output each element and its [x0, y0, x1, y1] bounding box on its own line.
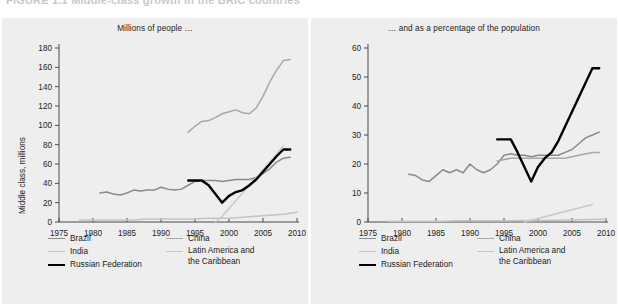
legend-column-1: BrazilIndiaRussian Federation: [359, 232, 479, 271]
legend-label-india: India: [381, 245, 399, 258]
svg-text:20: 20: [352, 160, 362, 169]
legend-swatch-brazil: [359, 238, 376, 239]
svg-text:60: 60: [352, 44, 362, 53]
legend-label-brazil: Brazil: [70, 232, 91, 245]
svg-text:40: 40: [43, 179, 53, 188]
legend-label-russian-federation: Russian Federation: [381, 258, 453, 271]
legend-swatch-india: [359, 251, 376, 252]
svg-text:120: 120: [38, 102, 52, 111]
legend-label-russian-federation: Russian Federation: [70, 258, 142, 271]
figure-container: FIGURE 1.1 Middle-class growth in the BR…: [0, 0, 619, 304]
legend-item-china[interactable]: China: [477, 232, 607, 245]
legend-label-latin-america-and: Latin America andthe Caribbean: [499, 245, 565, 267]
legend-column-1: BrazilIndiaRussian Federation: [48, 232, 168, 271]
svg-text:140: 140: [38, 83, 52, 92]
svg-text:80: 80: [43, 141, 53, 150]
figure-header: FIGURE 1.1 Middle-class growth in the BR…: [0, 0, 619, 18]
legend-swatch-russian-federation: [359, 264, 376, 266]
legend-item-brazil[interactable]: Brazil: [48, 232, 168, 245]
legend-swatch-latin-america-and: [477, 251, 494, 252]
svg-text:10: 10: [352, 189, 362, 198]
legend-swatch-brazil: [48, 238, 65, 239]
svg-text:100: 100: [38, 121, 52, 130]
svg-text:0: 0: [356, 218, 361, 227]
svg-text:0: 0: [47, 218, 52, 227]
legend-swatch-india: [48, 251, 65, 252]
svg-text:50: 50: [352, 73, 362, 82]
legend-column-2: ChinaLatin America andthe Caribbean: [477, 232, 607, 256]
legend-swatch-russian-federation: [48, 264, 65, 266]
svg-text:30: 30: [352, 131, 362, 140]
svg-text:180: 180: [38, 44, 52, 53]
legend-item-russian-federation[interactable]: Russian Federation: [359, 258, 479, 271]
legend-column-2: ChinaLatin America andthe Caribbean: [166, 232, 296, 256]
svg-text:60: 60: [43, 160, 53, 169]
legend-label-india: India: [70, 245, 88, 258]
legend-label-latin-america-and: Latin America andthe Caribbean: [188, 245, 254, 267]
legend-item-brazil[interactable]: Brazil: [359, 232, 479, 245]
svg-text:160: 160: [38, 63, 52, 72]
legend-swatch-china: [477, 238, 494, 239]
legend-item-latin-america-and[interactable]: Latin America andthe Caribbean: [166, 245, 296, 256]
legend-item-china[interactable]: China: [166, 232, 296, 245]
legend-label-china: China: [499, 232, 521, 245]
legend-swatch-china: [166, 238, 183, 239]
legend-item-russian-federation[interactable]: Russian Federation: [48, 258, 168, 271]
legend-item-latin-america-and[interactable]: Latin America andthe Caribbean: [477, 245, 607, 256]
legend-item-india[interactable]: India: [48, 245, 168, 258]
legend-item-india[interactable]: India: [359, 245, 479, 258]
legend-label-brazil: Brazil: [381, 232, 402, 245]
figure-header-text: FIGURE 1.1 Middle-class growth in the BR…: [6, 0, 300, 6]
legend-label-china: China: [188, 232, 210, 245]
svg-text:20: 20: [43, 199, 53, 208]
svg-text:40: 40: [352, 102, 362, 111]
legend-swatch-latin-america-and: [166, 251, 183, 252]
